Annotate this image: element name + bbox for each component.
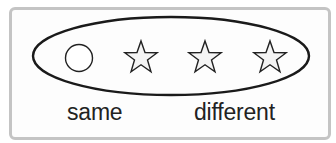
diagram-canvas (0, 0, 336, 143)
star-icon (125, 41, 157, 72)
star-icon (189, 41, 221, 72)
label-same: same (67, 98, 122, 126)
label-different: different (194, 98, 275, 126)
star-icon (254, 41, 286, 72)
circle-icon (66, 45, 93, 72)
